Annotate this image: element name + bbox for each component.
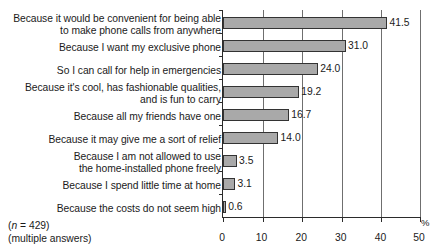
- bar-7: [223, 155, 237, 167]
- x-axis-label-20: 20: [295, 232, 306, 243]
- bar-value-5: 16.7: [291, 109, 311, 121]
- y-tick-6: [219, 125, 223, 126]
- gridline-50: [420, 10, 421, 217]
- bar-value-3: 24.0: [320, 63, 340, 75]
- y-tick-4: [219, 79, 223, 80]
- bar-value-4: 19.2: [301, 86, 321, 98]
- bar-6: [223, 132, 278, 144]
- bar-5: [223, 109, 289, 121]
- x-tick-20: [302, 217, 303, 222]
- category-label-4: Because it's cool, has fashionable quali…: [25, 82, 221, 105]
- category-label-9: Because the costs do not seem high: [57, 203, 221, 215]
- x-tick-10: [263, 217, 264, 222]
- category-label-3: So I can call for help in emergencies: [57, 65, 221, 77]
- y-tick-1: [219, 10, 223, 11]
- y-tick-7: [219, 148, 223, 149]
- y-tick-3: [219, 56, 223, 57]
- bar-8: [223, 178, 235, 190]
- x-tick-0: [223, 217, 224, 222]
- category-label-1: Because it would be convenient for being…: [13, 13, 221, 36]
- x-axis-label-10: 10: [256, 232, 267, 243]
- x-axis-unit-label: %: [421, 217, 429, 228]
- category-label-8: Because I spend little time at home: [62, 180, 221, 192]
- bar-3: [223, 63, 318, 75]
- x-axis-label-40: 40: [375, 232, 386, 243]
- y-tick-8: [219, 171, 223, 172]
- category-label-2: Because I want my exclusive phone: [59, 42, 221, 54]
- x-axis-label-50: 50: [413, 232, 424, 243]
- plot-area: 41.5 31.0 24.0 19.2 16.7 14.0 3.5 3.1 0.…: [222, 10, 420, 218]
- footnote-sample-size: (n = 429): [8, 219, 92, 232]
- bar-4: [223, 86, 299, 98]
- x-axis-label-30: 30: [335, 232, 346, 243]
- y-tick-5: [219, 102, 223, 103]
- gridline-40: [381, 10, 382, 217]
- category-label-5: Because all my friends have one: [74, 111, 221, 123]
- y-tick-2: [219, 33, 223, 34]
- bar-value-1: 41.5: [390, 17, 410, 29]
- footnote: (n = 429) (multiple answers): [8, 219, 92, 245]
- category-label-6: Because it may give me a sort of relief: [48, 134, 221, 146]
- bar-value-6: 14.0: [281, 132, 301, 144]
- x-axis-label-0: 0: [219, 232, 225, 243]
- y-tick-9: [219, 194, 223, 195]
- bar-value-7: 3.5: [239, 155, 253, 167]
- x-tick-30: [342, 217, 343, 222]
- bar-value-8: 3.1: [238, 178, 252, 190]
- x-tick-40: [381, 217, 382, 222]
- bar-1: [223, 17, 387, 29]
- bar-chart-figure: Because it would be convenient for being…: [0, 0, 435, 252]
- category-label-7: Because I am not allowed to use the home…: [74, 151, 221, 174]
- bar-2: [223, 40, 346, 52]
- bar-9: [223, 201, 226, 213]
- footnote-multiple-answers: (multiple answers): [8, 232, 92, 245]
- bar-value-9: 0.6: [228, 201, 242, 213]
- bar-value-2: 31.0: [348, 40, 368, 52]
